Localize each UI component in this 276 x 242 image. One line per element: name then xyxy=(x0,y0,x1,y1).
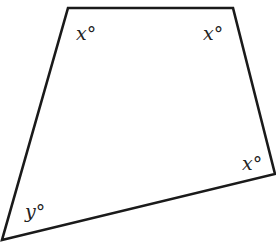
angle-label-top-left: x° xyxy=(76,22,96,44)
angle-label-bottom-left: y° xyxy=(24,200,45,222)
angle-label-top-right: x° xyxy=(203,22,223,44)
angle-label-right: x° xyxy=(242,152,262,174)
quadrilateral-diagram: x° x° x° y° xyxy=(0,0,276,242)
